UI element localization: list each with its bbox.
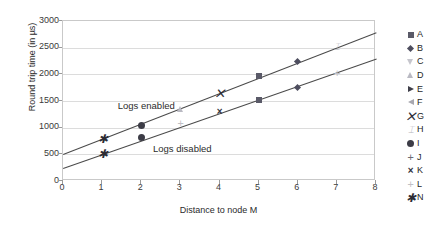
legend-item-c[interactable]: C [405, 55, 440, 69]
legend-item-label: I [416, 138, 420, 149]
legend-item-label: F [416, 97, 423, 108]
x-tick-label: 8 [365, 183, 385, 192]
y-tick-label: 2500 [39, 42, 59, 51]
legend-item-j[interactable]: +J [405, 150, 440, 164]
legend-item-e[interactable]: E [405, 82, 440, 96]
x-tick-label: 4 [209, 183, 229, 192]
legend-item-label: N [416, 192, 424, 203]
legend-marker-icon: ✱ [405, 192, 416, 203]
y-tick-label: 1500 [39, 96, 59, 105]
legend-marker-icon [405, 29, 416, 40]
x-tick-label: 7 [326, 183, 346, 192]
legend-item-k[interactable]: ×K [405, 164, 440, 178]
x-tick-label: 1 [91, 183, 111, 192]
x-tick-label: 2 [130, 183, 150, 192]
gridline [63, 101, 374, 102]
legend-item-f[interactable]: F [405, 96, 440, 110]
x-tick-label: 6 [287, 183, 307, 192]
legend-item-b[interactable]: B [405, 42, 440, 56]
legend-item-label: H [416, 124, 424, 135]
legend-item-label: D [416, 70, 424, 81]
legend-marker-icon: ⌶ [405, 124, 416, 135]
legend-marker-icon [405, 84, 416, 95]
chart-container: Round trip time (in µs) 0500100015002000… [0, 0, 440, 229]
legend-marker-icon [405, 97, 416, 108]
gridline [63, 48, 374, 49]
y-tick-label: 2000 [39, 69, 59, 78]
legend-item-label: K [416, 165, 423, 176]
x-axis-title: Distance to node M [62, 205, 375, 215]
legend-item-a[interactable]: A [405, 28, 440, 42]
legend-item-d[interactable]: D [405, 69, 440, 83]
legend-item-label: E [416, 84, 423, 95]
gridline [63, 154, 374, 155]
legend-item-label: A [416, 29, 423, 40]
legend-marker-icon [405, 138, 416, 149]
x-tick-label: 3 [169, 183, 189, 192]
legend-item-label: L [416, 179, 422, 190]
legend-item-h[interactable]: ⌶H [405, 123, 440, 137]
annotation-label: Logs enabled [118, 100, 175, 111]
legend-item-label: G [416, 111, 424, 122]
legend-item-g[interactable]: ⨉G [405, 110, 440, 124]
y-axis-title: Round trip time (in µs) [27, 7, 37, 127]
legend-marker-icon: × [405, 165, 416, 176]
gridline [63, 128, 374, 129]
legend-marker-icon: + [405, 179, 416, 190]
legend-item-l[interactable]: +L [405, 178, 440, 192]
legend-marker-icon: + [405, 152, 416, 163]
legend-marker-icon [405, 70, 416, 81]
legend-item-label: C [416, 56, 424, 67]
x-tick-label: 5 [248, 183, 268, 192]
y-tick-label: 3000 [39, 16, 59, 25]
legend-item-label: B [416, 43, 423, 54]
legend-marker-icon [405, 56, 416, 67]
legend-item-n[interactable]: ✱N [405, 191, 440, 205]
chart-legend: ABCDEF⨉G⌶HI+J×K+L✱N [405, 28, 440, 205]
legend-item-label: J [416, 152, 422, 163]
legend-item-i[interactable]: I [405, 137, 440, 151]
plot-area: ✱⨉⌶✱+×+ Logs enabledLogs disabled [62, 20, 375, 180]
y-tick-label: 1000 [39, 122, 59, 131]
annotation-label: Logs disabled [153, 143, 212, 154]
legend-marker-icon [405, 43, 416, 54]
legend-marker-icon: ⨉ [405, 111, 416, 122]
y-tick-label: 500 [44, 149, 59, 158]
x-tick-label: 0 [52, 183, 72, 192]
